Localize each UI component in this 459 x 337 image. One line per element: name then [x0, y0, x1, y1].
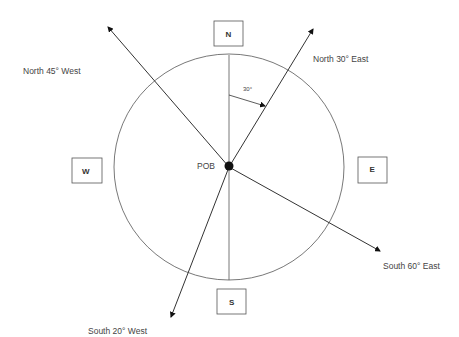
- south-box: S: [217, 289, 246, 314]
- compass-diagram: 30° POB N S E W North 30° East North 45°…: [0, 0, 459, 337]
- bearing-label-n45w: North 45° West: [23, 66, 81, 76]
- bearing-arrow-n45w: [108, 27, 229, 167]
- bearing-label-s60e: South 60° East: [383, 261, 440, 271]
- bearing-label-n30e: North 30° East: [313, 54, 369, 64]
- bearing-arrow-n30e: [229, 29, 313, 167]
- east-label: E: [370, 165, 376, 174]
- bearing-label-s20w: South 20° West: [88, 326, 148, 336]
- bearing-arrow-s60e: [229, 167, 380, 251]
- angle-annotation-label: 30°: [243, 86, 253, 92]
- south-label: S: [229, 298, 235, 307]
- pob-point: [225, 162, 234, 171]
- east-box: E: [358, 157, 387, 183]
- pob-label: POB: [197, 161, 215, 171]
- north-label: N: [226, 30, 232, 39]
- west-label: W: [82, 167, 90, 176]
- west-box: W: [72, 158, 102, 183]
- angle-annotation-arrow: [229, 95, 265, 106]
- north-box: N: [214, 21, 243, 46]
